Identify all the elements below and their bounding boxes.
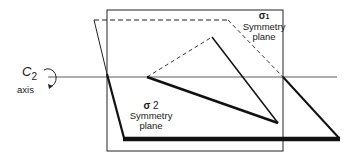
- c2-axis-symbol: C2: [22, 64, 37, 82]
- plane2-right-solid: [283, 77, 339, 138]
- plane1-label: σ1 Symmetry plane: [236, 11, 292, 42]
- plane2-left-thin: [94, 20, 107, 74]
- axis-word-label: axis: [17, 84, 34, 95]
- plane2-label: σ 2 Symmetry plane: [121, 101, 181, 131]
- triangle-top-dashed: [147, 37, 212, 77]
- symmetry-diagram: [0, 0, 357, 161]
- plane1-line2: plane: [236, 32, 292, 42]
- arrowhead-icon: [48, 84, 53, 89]
- plane2-line2: plane: [121, 121, 181, 131]
- rotation-arrow-icon: [44, 69, 56, 86]
